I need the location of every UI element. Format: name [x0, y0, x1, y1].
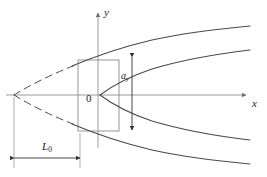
half-width-label: ay [121, 71, 129, 83]
y-axis-label: y [104, 7, 109, 18]
outer-lower-dashed-segment [14, 95, 78, 126]
core-region-rectangle [78, 60, 119, 131]
inner-lower-curve [100, 95, 250, 140]
origin-label: 0 [86, 93, 92, 104]
figure-canvas: y x 0 ay L0 [0, 0, 267, 177]
length-subscript: 0 [48, 145, 52, 154]
diagram-svg [0, 0, 267, 177]
outer-upper-dashed-segment [14, 64, 78, 95]
outer-lower-solid-segment [72, 124, 250, 164]
x-axis-label: x [252, 98, 257, 109]
dimension-l0 [14, 97, 80, 168]
half-width-subscript: y [126, 75, 129, 82]
length-label: L0 [42, 141, 52, 153]
